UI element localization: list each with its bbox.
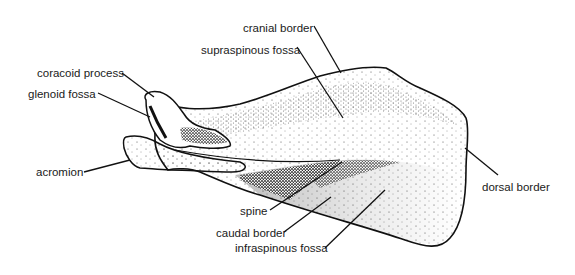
label-coracoid-process: coracoid process	[37, 67, 124, 79]
label-supraspinous-fossa: supraspinous fossa	[201, 44, 300, 56]
label-dorsal-border: dorsal border	[482, 181, 550, 193]
leader-coracoid-process	[122, 73, 154, 97]
label-spine: spine	[240, 205, 268, 217]
leader-glenoid-fossa	[98, 93, 150, 117]
leader-dorsal-border	[465, 148, 498, 175]
scapula-diagram: cranial border supraspinous fossa coraco…	[0, 0, 575, 275]
scapula-illustration	[0, 0, 575, 275]
leader-acromion	[84, 160, 130, 172]
label-cranial-border: cranial border	[243, 22, 313, 34]
label-glenoid-fossa: glenoid fossa	[28, 88, 96, 100]
label-infraspinous-fossa: infraspinous fossa	[235, 242, 328, 254]
label-acromion: acromion	[36, 166, 83, 178]
label-caudal-border: caudal border	[216, 227, 286, 239]
leader-cranial-border	[314, 26, 341, 73]
